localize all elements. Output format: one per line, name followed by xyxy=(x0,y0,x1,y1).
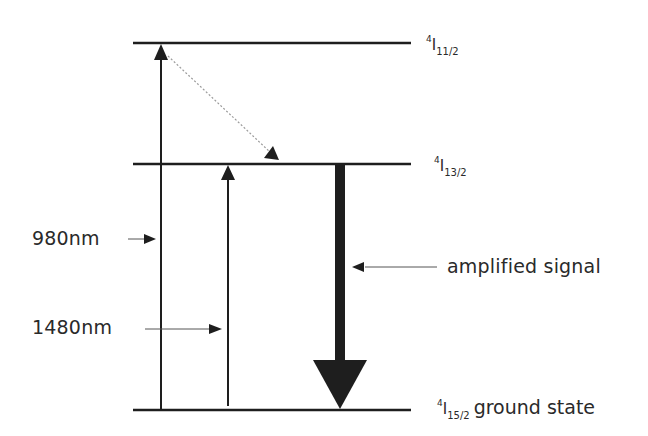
label-pointer-signal xyxy=(352,262,437,272)
level-label-4i11-2: 4I11/2 xyxy=(426,34,459,57)
level-label-sub: 15/2 xyxy=(447,410,469,421)
pump-980-arrow xyxy=(154,44,168,410)
level-label-sub: 11/2 xyxy=(436,46,458,57)
level-label-4i15-2: 4I15/2ground state xyxy=(437,396,595,421)
amplified-signal-arrow xyxy=(313,164,367,409)
amplified-signal-label: amplified signal xyxy=(447,255,601,277)
pump-980-label: 980nm xyxy=(32,227,100,249)
label-pointer-980 xyxy=(128,234,156,244)
nonradiative-decay-arrow xyxy=(168,56,279,160)
ground-state-label: ground state xyxy=(474,396,595,418)
level-label-sub: 13/2 xyxy=(444,167,466,178)
pump-1480-arrow xyxy=(221,165,235,406)
level-label-4i13-2: 4I13/2 xyxy=(434,155,467,178)
pump-1480-label: 1480nm xyxy=(32,316,112,338)
label-pointer-1480 xyxy=(145,324,222,334)
energy-level-diagram xyxy=(0,0,648,436)
